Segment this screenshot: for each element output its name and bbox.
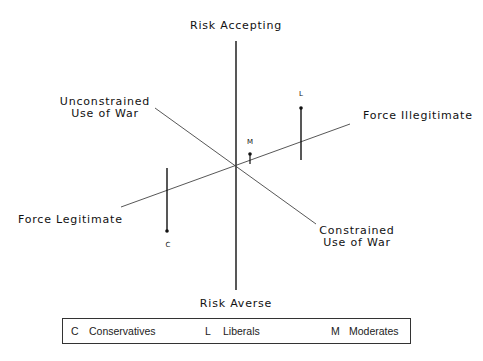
constrained-label: Constrained Use of War (307, 225, 407, 249)
legend-label: Liberals (223, 325, 260, 337)
legend-code: M (331, 325, 349, 337)
unconstrained-label: Unconstrained Use of War (55, 96, 155, 120)
legend-item-liberals: LLiberals (205, 325, 260, 337)
legend-label: Conservatives (89, 325, 156, 337)
legend-item-conservatives: CConservatives (71, 325, 156, 337)
legend-code: L (205, 325, 223, 337)
unconstrained-line2: Use of War (55, 108, 155, 120)
legend-item-moderates: MModerates (331, 325, 399, 337)
liberals-point-label: L (299, 90, 303, 98)
liberals-point (299, 106, 303, 110)
legend: CConservatives LLiberals MModerates (62, 318, 411, 344)
legend-code: C (71, 325, 89, 337)
conservatives-point-label: C (166, 241, 171, 249)
force-illegitimate-label: Force Illegitimate (363, 110, 473, 122)
moderates-point (248, 152, 252, 156)
risk-averse-label: Risk Averse (186, 298, 286, 310)
conservatives-point (165, 229, 169, 233)
moderates-point-label: M (247, 138, 253, 146)
risk-accepting-label: Risk Accepting (186, 20, 286, 32)
force-legitimate-label: Force Legitimate (18, 214, 123, 226)
legend-label: Moderates (349, 325, 399, 337)
constrained-line2: Use of War (307, 237, 407, 249)
